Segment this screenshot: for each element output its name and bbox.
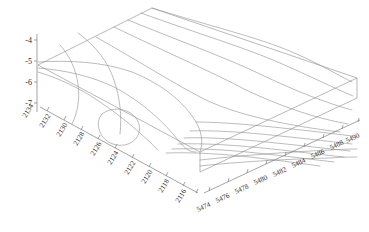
x-tick-label-4: 5482 (271, 165, 288, 178)
z-tick-label-2: -6 (25, 78, 32, 87)
y-tick-label-3: 2128 (72, 130, 87, 147)
x-tick-5 (304, 143, 305, 147)
x-tick-label-1: 5476 (214, 191, 231, 204)
x-tick-label-6: 5486 (309, 147, 326, 160)
y-tick-label-2: 2130 (55, 121, 70, 138)
y-tick-2 (81, 126, 83, 130)
y-tick-label-9: 2116 (174, 188, 188, 205)
y-tick-label-4: 2126 (89, 140, 104, 157)
y-tick-7 (166, 172, 168, 176)
x-tick-label-0: 5474 (195, 200, 212, 213)
y-tick-label-5: 2124 (106, 149, 121, 166)
x-tick-label-3: 5480 (252, 173, 269, 186)
y-tick-label-0: 2134 (21, 102, 36, 119)
y-tick-label-1: 2132 (38, 112, 53, 129)
surface-plot-svg: -4 -5 -6 -7 2134 2132 2130 21 (0, 0, 369, 232)
y-tick-label-6: 2122 (123, 159, 138, 176)
chart-canvas: -4 -5 -6 -7 2134 2132 2130 21 (0, 0, 369, 232)
x-tick-label-2: 5478 (233, 182, 250, 195)
z-axis: -4 -5 -6 -7 (25, 34, 37, 112)
x-tick-label-8: 5490 (344, 131, 361, 144)
y-tick-0 (47, 107, 49, 111)
x-tick-6 (323, 134, 324, 138)
surface-top-fill (38, 8, 357, 152)
x-tick-8 (358, 118, 359, 122)
y-tick-6 (149, 163, 151, 167)
y-tick-1 (64, 116, 66, 120)
z-tick-label-0: -4 (25, 36, 32, 45)
z-tick-label-1: -5 (25, 57, 32, 66)
y-tick-label-8: 2118 (157, 178, 171, 195)
y-tick-3 (98, 135, 100, 139)
y-tick-label-7: 2120 (140, 168, 155, 185)
